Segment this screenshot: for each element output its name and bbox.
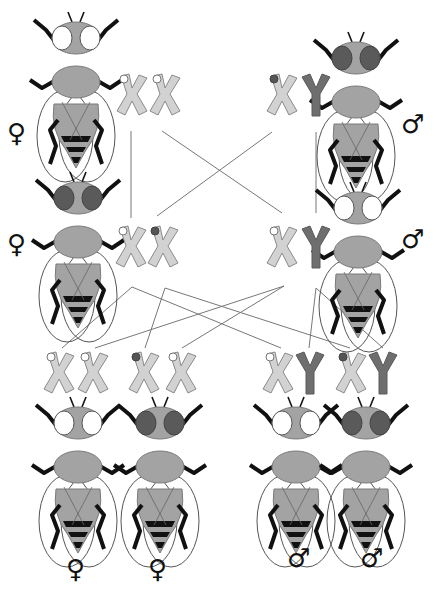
f1-female-red-eyed — [32, 172, 178, 342]
x-chromosome-white-allele — [117, 74, 147, 115]
cross-line — [309, 288, 316, 348]
fly-female-white-eye — [30, 12, 122, 182]
female-symbol: ♀ — [7, 231, 26, 257]
f1-male-white-eyed — [267, 182, 404, 352]
male-symbol: ♂ — [360, 545, 383, 571]
x-chromosome-white-allele — [166, 352, 196, 393]
cross-line — [182, 286, 284, 348]
x-chromosome-red-allele — [267, 74, 297, 115]
chromosome-pair-xx-white-white — [44, 352, 108, 393]
cross-line — [157, 132, 272, 216]
x-chromosome-white-allele — [116, 226, 146, 267]
female-symbol: ♀ — [7, 120, 26, 146]
inheritance-diagram — [0, 0, 441, 596]
chromosome-pair-xy-white — [263, 352, 324, 394]
y-chromosome — [296, 352, 324, 394]
male-symbol: ♂ — [401, 111, 424, 137]
f2-chromosomes — [44, 352, 397, 394]
x-chromosome-white-allele — [44, 352, 74, 393]
f2-male-white-eyed — [250, 397, 342, 567]
f2-male-red-eyed — [320, 397, 412, 567]
parent-male-red-eyed — [267, 32, 402, 202]
cross-line — [145, 288, 165, 348]
f2-female-white-eyed — [32, 397, 124, 567]
fly-female-red-eye — [32, 172, 124, 342]
chromosome-pair-xy-red — [336, 352, 397, 394]
male-symbol: ♂ — [287, 545, 310, 571]
x-chromosome-white-allele — [78, 352, 108, 393]
x-chromosome-white-allele — [263, 352, 293, 393]
chromosome-pair-xy — [267, 74, 330, 116]
x-chromosome-red-allele — [336, 352, 366, 393]
fly-male-red-eye — [310, 32, 402, 202]
female-symbol: ♀ — [66, 556, 85, 582]
cross-line — [132, 287, 281, 348]
male-symbol: ♂ — [401, 226, 424, 252]
chromosome-pair-xy — [267, 226, 330, 268]
y-chromosome — [302, 74, 330, 116]
chromosome-pair-xx — [117, 74, 180, 115]
y-chromosome — [369, 352, 397, 394]
cross-line — [162, 131, 282, 213]
chromosome-pair-xx — [116, 226, 178, 267]
cross-line — [165, 288, 350, 348]
x-chromosome-red-allele — [148, 226, 178, 267]
x-chromosome-white-allele — [150, 74, 180, 115]
x-chromosome-white-allele — [267, 226, 297, 267]
female-symbol: ♀ — [148, 556, 167, 582]
parent-female-white-eyed — [30, 12, 180, 182]
f2-female-red-eyed — [114, 397, 206, 567]
fly-male-white-eye — [312, 182, 404, 352]
chromosome-pair-xx-red-white — [129, 352, 196, 393]
x-chromosome-red-allele — [129, 352, 159, 393]
y-chromosome — [302, 226, 330, 268]
